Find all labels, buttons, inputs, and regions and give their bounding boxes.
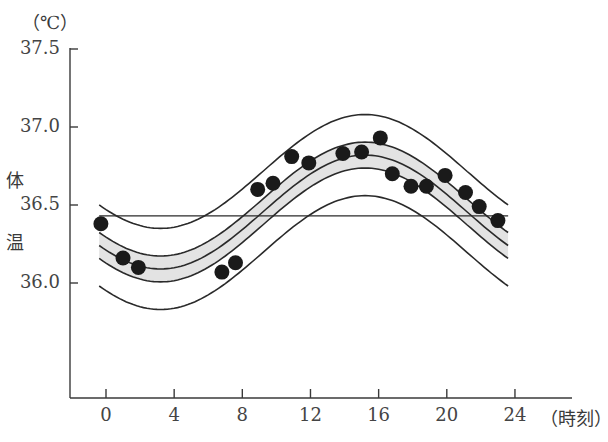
data-point — [404, 179, 419, 194]
cosinor-chart — [0, 0, 608, 442]
data-point — [266, 176, 281, 191]
data-point — [490, 213, 505, 228]
x-tick-label: 12 — [290, 404, 330, 425]
x-tick-label: 20 — [427, 404, 467, 425]
data-point — [284, 149, 299, 164]
x-tick-label: 24 — [495, 404, 535, 425]
x-axis-label: （時刻） — [540, 404, 608, 430]
x-tick-label: 0 — [86, 404, 126, 425]
data-point — [472, 199, 487, 214]
y-unit-label: （℃） — [22, 8, 78, 34]
data-point — [419, 179, 434, 194]
data-point — [93, 216, 108, 231]
data-point — [385, 166, 400, 181]
y-tick-label: 37.5 — [0, 37, 60, 58]
data-point — [438, 168, 453, 183]
data-point — [354, 145, 369, 160]
x-tick-label: 16 — [359, 404, 399, 425]
data-point — [116, 251, 131, 266]
x-tick-label: 4 — [154, 404, 194, 425]
x-tick-label: 8 — [222, 404, 262, 425]
data-point — [214, 265, 229, 280]
y-tick-label: 37.0 — [0, 115, 60, 136]
data-point — [373, 130, 388, 145]
y-tick-label: 36.5 — [0, 193, 60, 214]
y-axis-label-bottom: 温 — [6, 228, 24, 254]
y-tick-label: 36.0 — [0, 271, 60, 292]
data-point — [458, 185, 473, 200]
data-point — [335, 146, 350, 161]
data-point — [131, 260, 146, 275]
data-point — [250, 182, 265, 197]
outer-lower-curve — [99, 196, 508, 310]
data-point — [301, 155, 316, 170]
y-axis-label-top: 体 — [6, 166, 24, 192]
data-point — [228, 255, 243, 270]
